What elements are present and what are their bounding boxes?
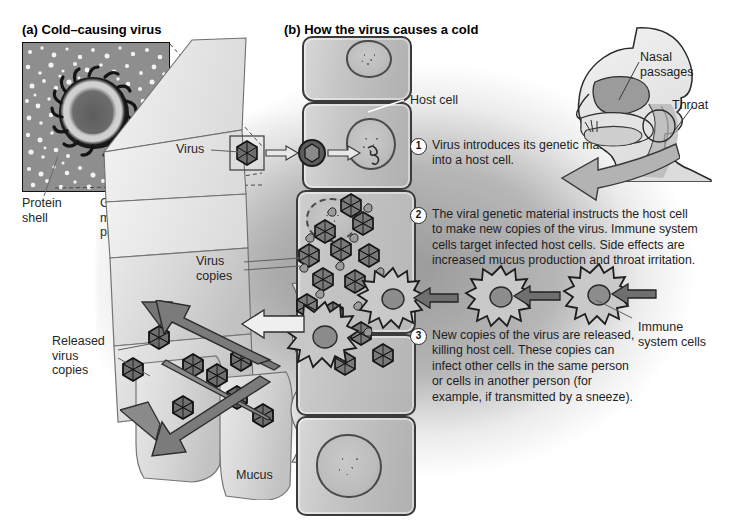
figure-canvas: (a) Cold–causing virus xyxy=(0,0,734,521)
label-nasal-passages: Nasal passages xyxy=(640,50,694,80)
label-throat: Throat xyxy=(672,98,708,113)
label-released-virus-copies: Released virus copies xyxy=(52,334,105,378)
step-3: 3 New copies of the virus are released, … xyxy=(410,328,678,405)
label-virus-copies: Virus copies xyxy=(196,254,232,283)
step-3-text: New copies of the virus are released, ki… xyxy=(432,328,640,405)
label-host-cell: Host cell xyxy=(410,93,458,108)
step-3-number: 3 xyxy=(410,328,427,345)
step-2: 2 The viral genetic material instructs t… xyxy=(410,207,678,269)
step-2-number: 2 xyxy=(410,207,427,224)
label-mucus: Mucus xyxy=(236,468,273,483)
infection-route-arrow xyxy=(500,140,680,210)
step-2-text: The viral genetic material instructs the… xyxy=(432,207,698,269)
step-1-number: 1 xyxy=(410,138,427,155)
label-virus: Virus xyxy=(176,142,204,157)
